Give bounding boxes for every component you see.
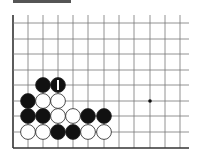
black-stone[interactable] <box>36 109 51 124</box>
white-stone[interactable] <box>97 125 112 140</box>
white-stone[interactable] <box>51 94 66 109</box>
white-stone[interactable] <box>66 109 81 124</box>
white-stone[interactable] <box>36 94 51 109</box>
black-stone[interactable] <box>66 125 81 140</box>
go-board[interactable] <box>0 0 200 160</box>
black-stone[interactable] <box>51 125 66 140</box>
black-stone[interactable] <box>36 78 51 93</box>
black-stone[interactable] <box>81 109 96 124</box>
black-stone[interactable] <box>21 109 36 124</box>
white-stone[interactable] <box>21 125 36 140</box>
black-stone[interactable] <box>97 109 112 124</box>
white-stone[interactable] <box>51 109 66 124</box>
black-stone[interactable] <box>21 94 36 109</box>
move-number-mark <box>57 80 59 90</box>
white-stone[interactable] <box>36 125 51 140</box>
white-stone[interactable] <box>81 125 96 140</box>
star-point <box>148 99 152 103</box>
